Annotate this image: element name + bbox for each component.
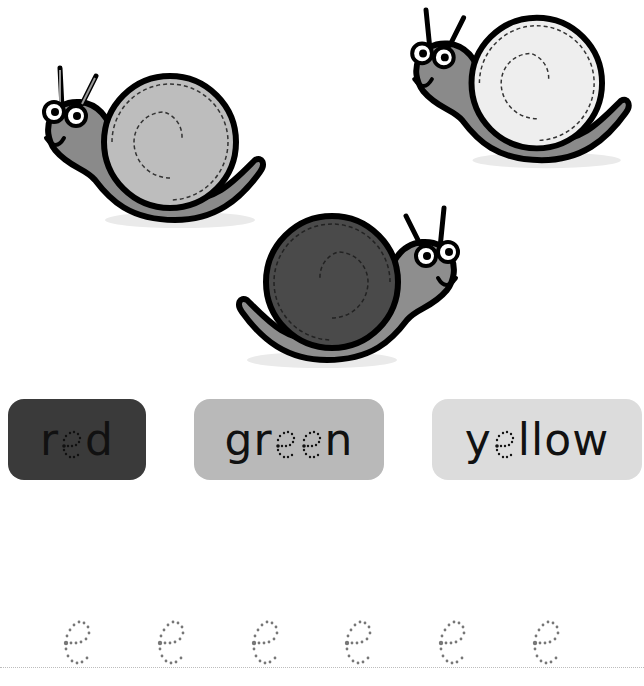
- word-yellow-prefix: y: [465, 418, 492, 462]
- tracing-row: [0, 600, 644, 686]
- dotted-e-icon: [493, 426, 517, 460]
- tracing-e-5[interactable]: [437, 618, 471, 668]
- snail-light-shell: [392, 2, 642, 180]
- word-card-red: r d: [8, 399, 146, 480]
- dotted-e-icon: [300, 426, 324, 460]
- word-red: r d: [40, 418, 114, 462]
- tracing-e-2[interactable]: [156, 618, 190, 668]
- snail-dark-shell: [232, 200, 472, 380]
- tracing-e-4[interactable]: [343, 618, 377, 668]
- word-card-green: gr n: [194, 399, 384, 480]
- dotted-e-icon: [60, 426, 84, 460]
- word-red-prefix: r: [40, 418, 59, 462]
- word-card-yellow: y llow: [432, 399, 642, 480]
- word-yellow: y llow: [465, 418, 609, 462]
- word-red-suffix: d: [85, 418, 114, 462]
- tracing-baseline: [0, 667, 644, 668]
- word-green-suffix: n: [325, 418, 354, 462]
- word-yellow-suffix: llow: [518, 418, 609, 462]
- dotted-e-icon: [274, 426, 298, 460]
- word-green: gr n: [225, 418, 354, 462]
- word-green-prefix: gr: [225, 418, 273, 462]
- tracing-e-1[interactable]: [62, 618, 96, 668]
- tracing-e-3[interactable]: [250, 618, 284, 668]
- tracing-e-6[interactable]: [531, 618, 565, 668]
